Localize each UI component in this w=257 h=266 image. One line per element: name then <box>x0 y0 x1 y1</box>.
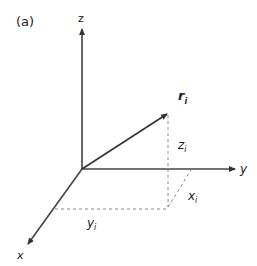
panel-label: (a) <box>16 15 34 28</box>
x-component-label: xi <box>188 190 197 205</box>
position-vector <box>82 114 167 169</box>
z-component-label: zi <box>178 139 187 154</box>
y-component-label: yi <box>87 217 96 232</box>
x-axis-label: x <box>17 250 24 261</box>
y-axis-label: y <box>240 163 247 175</box>
z-axis-label: z <box>78 13 84 24</box>
vector-label: ri <box>178 89 187 106</box>
coordinate-diagram <box>0 0 257 266</box>
x-axis <box>28 169 82 244</box>
